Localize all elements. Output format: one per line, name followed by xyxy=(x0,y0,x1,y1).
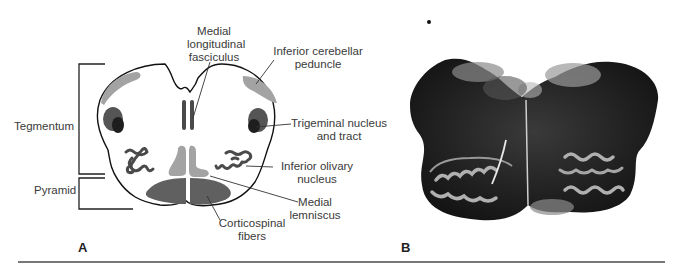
tegmentum-label: Tegmentum xyxy=(14,120,74,133)
bottom-divider xyxy=(18,261,665,263)
mlf-left xyxy=(182,100,186,130)
corticospinal-fibers-label: Corticospinal fibers xyxy=(213,217,291,243)
trigeminal-label: Trigeminal nucleus and tract xyxy=(289,117,389,143)
panel-label-b: B xyxy=(401,240,410,255)
histology-section xyxy=(410,20,658,220)
inferior-olivary-nucleus-label: Inferior olivary nucleus xyxy=(274,160,360,186)
panel-label-a: A xyxy=(78,240,87,255)
medial-lemniscus-label: Medial lemniscus xyxy=(288,196,342,222)
mlf-right xyxy=(190,100,194,130)
mlf-label: Medial longitudinal fasciculus xyxy=(187,25,241,64)
inferior-cerebellar-peduncle-label: Inferior cerebellar peduncle xyxy=(268,45,368,71)
pyramid-label: Pyramid xyxy=(34,184,76,197)
